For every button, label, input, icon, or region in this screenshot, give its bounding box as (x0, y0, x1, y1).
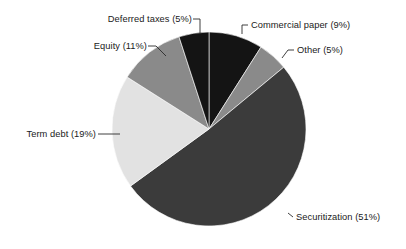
pie-chart-figure: Deferred taxes (5%) Commercial paper (9%… (0, 0, 406, 249)
pie-chart-canvas: Deferred taxes (5%) Commercial paper (9%… (0, 0, 406, 249)
pie-label-commercial-paper: Commercial paper (9%) (251, 20, 350, 30)
leader-line-other (282, 50, 294, 58)
pie-label-equity: Equity (11%) (94, 41, 147, 51)
pie-label-term-debt: Term debt (19%) (27, 129, 96, 139)
pie-label-deferred-taxes: Deferred taxes (5%) (108, 14, 192, 24)
pie-slices (112, 32, 306, 226)
leader-line-deferred-taxes (193, 19, 200, 34)
leader-line-securitization (288, 213, 293, 217)
pie-label-securitization: Securitization (51%) (296, 212, 380, 222)
pie-label-other: Other (5%) (297, 45, 343, 55)
leader-line-commercial-paper (242, 25, 248, 34)
